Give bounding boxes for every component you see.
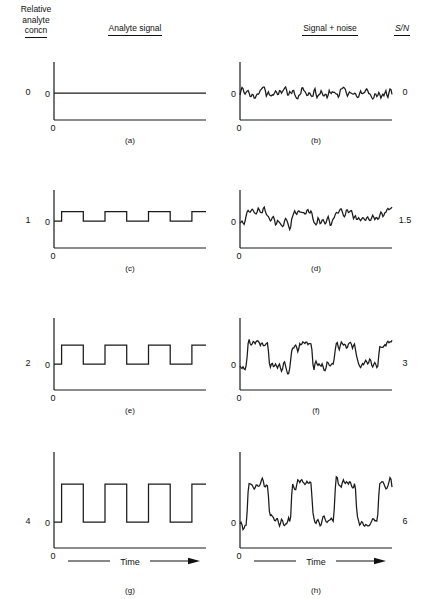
header-signal-plus-noise-label: Signal + noise [302,23,358,36]
x-axis-origin-label: 0 [50,251,55,261]
plot-signal-noise-d: 00 [224,188,402,262]
signal-trace [240,207,392,230]
y-axis-zero-label: 0 [45,89,50,99]
header-analyte-signal-label: Analyte signal [108,23,163,36]
caption-e: (e) [110,406,150,415]
caption-h: (h) [296,586,336,595]
time-axis-label: Time [306,557,326,567]
signal-trace [240,339,392,374]
plot-analyte-signal-g: 00 [38,450,216,562]
time-axis-label: Time [120,557,140,567]
y-axis-zero-label: 0 [45,360,50,370]
caption-c: (c) [110,264,150,273]
y-axis-zero-label: 0 [231,89,236,99]
header-sn-ratio: S/N [380,23,424,36]
plot-analyte-signal-a: 00 [38,60,216,134]
x-axis-origin-label: 0 [236,393,241,403]
time-axis-right: Time [240,552,392,568]
y-axis-zero-label: 0 [45,217,50,227]
x-axis-origin-label: 0 [50,393,55,403]
signal-trace [54,212,206,222]
caption-g: (g) [110,586,150,595]
plot-signal-noise-b: 00 [224,60,402,134]
y-axis-zero-label: 0 [45,518,50,528]
signal-trace [54,345,206,364]
caption-d: (d) [296,264,336,273]
plot-signal-noise-h: 00 [224,450,402,562]
y-axis-zero-label: 0 [231,518,236,528]
y-axis-zero-label: 0 [231,217,236,227]
header-analyte-signal: Analyte signal [60,23,210,36]
plot-signal-noise-f: 00 [224,316,402,404]
header-concentration-line2: analyte [6,15,66,26]
signal-trace [240,87,392,99]
x-axis-origin-label: 0 [236,123,241,133]
header-concentration-line3: concn [25,25,48,38]
caption-b: (b) [296,136,336,145]
plot-analyte-signal-e: 00 [38,316,216,404]
time-axis-left: Time [54,552,206,568]
signal-trace [54,484,206,522]
caption-f: (f) [296,406,336,415]
header-concentration: Relative analyte concn [6,4,66,38]
time-arrow-head [188,558,200,564]
plot-analyte-signal-c: 00 [38,188,216,262]
x-axis-origin-label: 0 [50,123,55,133]
caption-a: (a) [110,136,150,145]
figure-canvas: Relative analyte concn Analyte signal Si… [0,0,429,599]
time-arrow-head [374,558,386,564]
header-concentration-line1: Relative [6,4,66,15]
header-sn-ratio-label: S/N [394,23,410,36]
signal-trace [240,477,392,530]
y-axis-zero-label: 0 [231,360,236,370]
x-axis-origin-label: 0 [236,251,241,261]
